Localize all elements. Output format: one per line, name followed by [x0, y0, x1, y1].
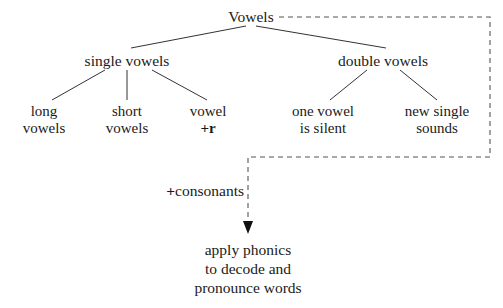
node-one-vowel-is-silent-line1: one vowel — [292, 103, 354, 120]
diagram-canvas: Vowels single vowels double vowels long … — [0, 0, 503, 308]
edge-double-to-one-vowel-silent — [330, 70, 367, 100]
node-vowel-plus-r-line2: +r — [190, 120, 227, 137]
node-short-vowels-line1: short — [106, 103, 149, 120]
node-long-vowels-line1: long — [23, 103, 66, 120]
node-outcome-line1: apply phonics — [194, 240, 301, 259]
node-apply-phonics-outcome[interactable]: apply phonics to decode and pronounce wo… — [194, 240, 301, 297]
edge-root-to-single-vowels — [131, 26, 246, 48]
node-one-vowel-is-silent-line2: is silent — [292, 120, 354, 137]
edge-single-to-vowel-plus-r — [152, 70, 207, 100]
arrowhead-icon — [243, 221, 253, 234]
node-outcome-line3: pronounce words — [194, 278, 301, 297]
node-new-single-sounds[interactable]: new single sounds — [405, 103, 470, 137]
node-plus-consonants-text: consonants — [175, 182, 244, 199]
node-vowel-plus-r[interactable]: vowel +r — [190, 103, 227, 137]
node-long-vowels[interactable]: long vowels — [23, 103, 66, 137]
edge-root-to-double-vowels — [256, 26, 386, 48]
node-one-vowel-is-silent[interactable]: one vowel is silent — [292, 103, 354, 137]
node-long-vowels-line2: vowels — [23, 120, 66, 137]
node-double-vowels-label: double vowels — [338, 52, 428, 69]
edge-single-to-long-vowels — [52, 70, 105, 100]
node-vowels-label: Vowels — [228, 8, 273, 25]
node-double-vowels[interactable]: double vowels — [338, 52, 428, 69]
node-single-vowels[interactable]: single vowels — [85, 52, 170, 69]
node-vowels[interactable]: Vowels — [228, 8, 273, 25]
edge-double-to-new-single-sounds — [400, 70, 437, 100]
node-short-vowels-line2: vowels — [106, 120, 149, 137]
node-outcome-line2: to decode and — [194, 259, 301, 278]
node-new-single-sounds-line1: new single — [405, 103, 470, 120]
node-short-vowels[interactable]: short vowels — [106, 103, 149, 137]
node-single-vowels-label: single vowels — [85, 52, 170, 69]
node-vowel-plus-r-line1: vowel — [190, 103, 227, 120]
node-plus-consonants-plus: + — [166, 182, 175, 199]
node-new-single-sounds-line2: sounds — [405, 120, 470, 137]
node-plus-consonants[interactable]: +consonants — [166, 182, 244, 199]
